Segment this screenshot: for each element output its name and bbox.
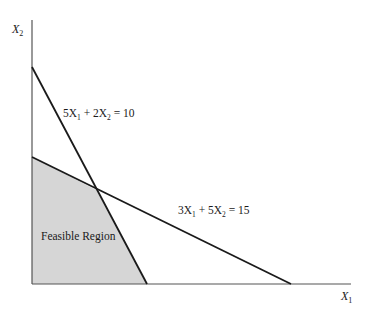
diagram-svg: X2 X1 5X1 + 2X2 = 10 3X1 + 5X2 = 15 Feas… — [0, 0, 367, 310]
lp-diagram: X2 X1 5X1 + 2X2 = 10 3X1 + 5X2 = 15 Feas… — [0, 0, 367, 310]
constraint-label-1: 5X1 + 2X2 = 10 — [63, 107, 135, 122]
x-axis-label: X1 — [340, 289, 352, 305]
feasible-region-label: Feasible Region — [41, 230, 116, 243]
constraint-label-2: 3X1 + 5X2 = 15 — [178, 204, 250, 219]
y-axis-label: X2 — [11, 22, 23, 38]
